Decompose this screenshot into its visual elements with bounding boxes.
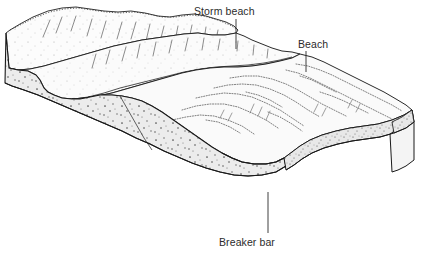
label-storm-beach: Storm beach xyxy=(194,5,255,17)
coastal-block-diagram xyxy=(0,0,444,255)
label-beach: Beach xyxy=(298,38,328,50)
label-breaker-bar: Breaker bar xyxy=(219,236,275,248)
